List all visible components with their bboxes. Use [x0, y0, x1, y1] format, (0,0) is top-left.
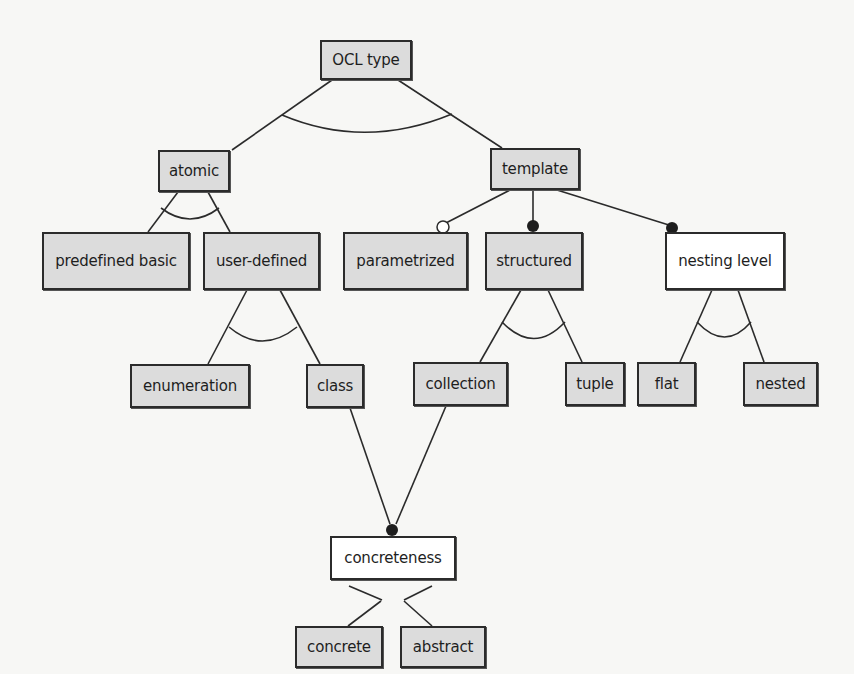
feature-label: parametrized [356, 252, 454, 270]
feature-label: OCL type [332, 51, 399, 69]
feature-label: flat [655, 375, 679, 393]
feature-label: abstract [413, 638, 473, 656]
feature-nesting-level: nesting level [665, 232, 785, 290]
feature-collection: collection [413, 362, 508, 406]
feature-label: concrete [307, 638, 371, 656]
feature-abstract: abstract [400, 626, 486, 668]
feature-parametrized: parametrized [343, 232, 468, 290]
feature-label: atomic [169, 162, 219, 180]
feature-user-defined: user-defined [203, 232, 320, 290]
feature-label: tuple [576, 375, 613, 393]
feature-label: nesting level [678, 252, 771, 270]
feature-tuple: tuple [565, 362, 625, 406]
edge-concreteness-concrete-lower [348, 601, 381, 626]
feature-class: class [306, 364, 364, 408]
feature-label: user-defined [216, 252, 307, 270]
feature-label: enumeration [143, 377, 237, 395]
feature-label: collection [426, 375, 496, 393]
feature-structured: structured [485, 232, 583, 290]
feature-predefined-basic: predefined basic [42, 232, 190, 290]
feature-concreteness: concreteness [330, 536, 456, 580]
feature-ocl-type: OCL type [320, 40, 412, 80]
feature-label: predefined basic [55, 252, 177, 270]
feature-label: structured [496, 252, 572, 270]
feature-enumeration: enumeration [130, 364, 250, 408]
feature-atomic: atomic [158, 150, 230, 192]
feature-flat: flat [637, 362, 696, 406]
feature-label: concreteness [344, 549, 441, 567]
feature-label: template [502, 160, 568, 178]
feature-label: nested [756, 375, 806, 393]
feature-concrete: concrete [295, 626, 383, 668]
edge-concreteness-abstract-lower [404, 601, 432, 626]
feature-label: class [317, 377, 353, 395]
feature-template: template [490, 148, 580, 190]
feature-nested: nested [743, 362, 818, 406]
